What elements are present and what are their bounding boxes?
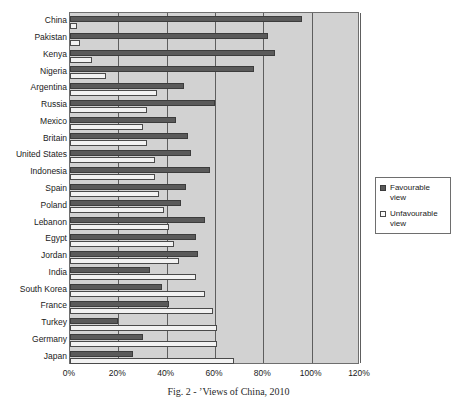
bar-row [70, 97, 358, 114]
gridline-120 [360, 13, 361, 363]
bar-unfavourable [70, 325, 217, 331]
bar-favourable [70, 318, 118, 324]
figure-caption: Fig. 2 - ’Views of China, 2010 [0, 386, 457, 401]
x-axis-tick-label: 100% [300, 368, 322, 378]
y-axis-tick-label: Japan [44, 351, 67, 361]
plot-area [69, 12, 359, 364]
bar-favourable [70, 284, 162, 290]
y-axis-labels: ChinaPakistanKenyaNigeriaArgentinaRussia… [0, 12, 67, 364]
bar-unfavourable [70, 174, 155, 180]
x-axis-tick-label: 120% [348, 368, 370, 378]
bar-favourable [70, 200, 181, 206]
bar-favourable [70, 66, 254, 72]
bar-favourable [70, 33, 268, 39]
bar-favourable [70, 217, 205, 223]
x-axis-tick-label: 0% [63, 368, 75, 378]
bar-row [70, 248, 358, 265]
legend-label-favourable: Favourable view [390, 183, 446, 202]
bar-favourable [70, 334, 143, 340]
y-axis-tick-label: India [49, 267, 67, 277]
bar-row [70, 315, 358, 332]
bar-favourable [70, 251, 198, 257]
bar-row [70, 30, 358, 47]
y-axis-tick-label: Nigeria [40, 66, 67, 76]
bar-favourable [70, 351, 133, 357]
y-axis-tick-label: South Korea [20, 284, 67, 294]
bar-rows [70, 13, 358, 363]
x-axis-tick-label: 60% [205, 368, 222, 378]
bar-unfavourable [70, 157, 155, 163]
legend-item-unfavourable: Unfavourable view [380, 209, 446, 228]
y-axis-tick-label: Kenya [43, 49, 67, 59]
bar-row [70, 264, 358, 281]
bar-favourable [70, 83, 184, 89]
bar-row [70, 281, 358, 298]
bar-row [70, 214, 358, 231]
chart-container: ChinaPakistanKenyaNigeriaArgentinaRussia… [0, 0, 457, 401]
bar-favourable [70, 167, 210, 173]
legend-item-favourable: Favourable view [380, 183, 446, 202]
bar-unfavourable [70, 341, 217, 347]
bar-unfavourable [70, 124, 143, 130]
bar-row [70, 197, 358, 214]
bar-unfavourable [70, 274, 196, 280]
bar-unfavourable [70, 90, 157, 96]
y-axis-tick-label: Turkey [41, 317, 67, 327]
y-axis-tick-label: Argentina [31, 82, 67, 92]
legend-label-unfavourable: Unfavourable view [390, 209, 446, 228]
y-axis-tick-label: Britain [43, 133, 67, 143]
y-axis-tick-label: Mexico [40, 116, 67, 126]
y-axis-tick-label: France [41, 300, 67, 310]
bar-favourable [70, 184, 186, 190]
bar-unfavourable [70, 191, 159, 197]
bar-row [70, 164, 358, 181]
bar-row [70, 231, 358, 248]
y-axis-tick-label: Germany [32, 334, 67, 344]
chart-legend: Favourable view Unfavourable view [375, 177, 451, 234]
bar-row [70, 331, 358, 348]
y-axis-tick-label: Indonesia [30, 166, 67, 176]
y-axis-tick-label: Egypt [45, 233, 67, 243]
bar-row [70, 47, 358, 64]
bar-favourable [70, 50, 275, 56]
bar-favourable [70, 133, 188, 139]
bar-row [70, 147, 358, 164]
bar-unfavourable [70, 291, 205, 297]
bar-favourable [70, 301, 169, 307]
y-axis-tick-label: Russia [41, 99, 67, 109]
bar-unfavourable [70, 308, 213, 314]
bar-favourable [70, 16, 302, 22]
x-axis-tick-label: 20% [109, 368, 126, 378]
bar-favourable [70, 234, 196, 240]
bar-unfavourable [70, 207, 164, 213]
y-axis-tick-label: Jordan [41, 250, 67, 260]
bar-unfavourable [70, 241, 174, 247]
bar-unfavourable [70, 40, 80, 46]
x-axis-labels: 0%20%40%60%80%100%120% [0, 368, 457, 382]
bar-unfavourable [70, 57, 92, 63]
bar-unfavourable [70, 23, 77, 29]
bar-row [70, 80, 358, 97]
bar-unfavourable [70, 358, 234, 364]
y-axis-tick-label: Pakistan [34, 32, 67, 42]
bar-row [70, 13, 358, 30]
bar-favourable [70, 267, 150, 273]
x-axis-tick-label: 40% [157, 368, 174, 378]
y-axis-tick-label: Poland [41, 200, 67, 210]
bar-unfavourable [70, 258, 179, 264]
bar-favourable [70, 100, 215, 106]
bar-unfavourable [70, 140, 147, 146]
bar-row [70, 130, 358, 147]
unfavourable-swatch-icon [380, 211, 386, 217]
favourable-swatch-icon [380, 185, 386, 191]
bar-row [70, 298, 358, 315]
y-axis-tick-label: China [45, 15, 67, 25]
bar-row [70, 181, 358, 198]
bar-row [70, 348, 358, 365]
bar-row [70, 63, 358, 80]
y-axis-tick-label: Lebanon [34, 217, 67, 227]
bar-row [70, 114, 358, 131]
bar-unfavourable [70, 224, 169, 230]
y-axis-tick-label: Spain [45, 183, 67, 193]
bar-unfavourable [70, 107, 147, 113]
